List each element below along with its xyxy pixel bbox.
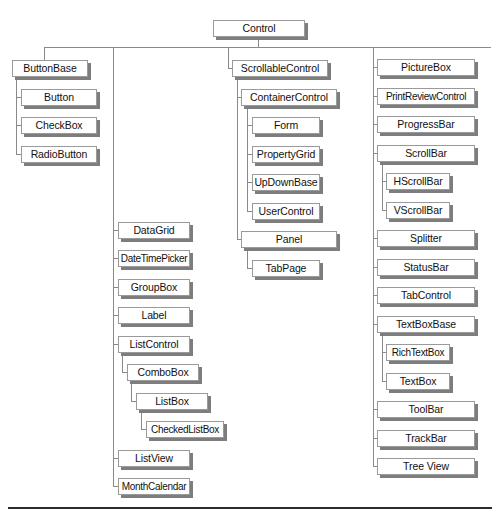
node-hscrollbar: HScrollBar <box>386 173 450 190</box>
connector-panel-trunk <box>247 248 248 268</box>
node-listcontrol: ListControl <box>118 336 190 353</box>
node-containercontrol: ContainerControl <box>241 89 337 106</box>
connector-root-bus <box>44 47 491 48</box>
node-propertygrid: PropertyGrid <box>252 146 320 163</box>
node-richtextbox: RichTextBox <box>386 344 450 361</box>
node-combobox: ComboBox <box>127 364 199 381</box>
connector-combobox <box>131 381 132 401</box>
node-monthcalendar: MonthCalendar <box>118 478 190 495</box>
node-tabcontrol: TabControl <box>377 287 475 304</box>
node-usercontrol: UserControl <box>252 203 320 220</box>
node-listbox: ListBox <box>136 393 208 410</box>
node-textboxbase: TextBoxBase <box>377 316 475 333</box>
connector-container-trunk <box>247 106 248 211</box>
node-scrollbar: ScrollBar <box>377 145 475 162</box>
node-checkbox: CheckBox <box>21 117 97 134</box>
connector-right-trunk <box>373 47 374 466</box>
node-printreviewcontrol: PrintReviewControl <box>377 88 475 105</box>
node-panel: Panel <box>241 231 337 248</box>
node-updownbase: UpDownBase <box>252 174 320 191</box>
connector-listbox <box>141 410 142 429</box>
connector-buttonbase-trunk <box>16 77 17 154</box>
node-trackbar: TrackBar <box>377 430 475 447</box>
connector-middle-trunk <box>113 47 114 486</box>
node-datetimepicker: DateTimePicker <box>118 250 190 267</box>
node-buttonbase: ButtonBase <box>12 60 88 77</box>
connector-scrollbar-trunk <box>382 162 383 210</box>
node-toolbar: ToolBar <box>377 401 475 418</box>
node-label: Label <box>118 307 190 324</box>
class-hierarchy-diagram: Control ButtonBase Button CheckBox Radio… <box>0 0 496 514</box>
node-control: Control <box>213 20 305 37</box>
node-groupbox: GroupBox <box>118 279 190 296</box>
node-treeview: Tree View <box>377 458 475 475</box>
node-splitter: Splitter <box>377 230 475 247</box>
node-statusbar: StatusBar <box>377 259 475 276</box>
node-picturebox: PictureBox <box>377 59 475 76</box>
connector-buttonbase-drop <box>44 47 45 60</box>
node-radiobutton: RadioButton <box>21 146 97 163</box>
bottom-rule-divider <box>8 507 492 509</box>
connector-scrollable-drop <box>228 47 229 68</box>
node-form: Form <box>252 117 320 134</box>
connector-textboxbase-trunk <box>382 333 383 381</box>
connector-listcontrol <box>122 353 123 372</box>
connector-scrollable-trunk <box>237 77 238 239</box>
node-listview: ListView <box>118 450 190 467</box>
node-button: Button <box>21 89 97 106</box>
node-textbox: TextBox <box>386 373 450 390</box>
connector-root-stem <box>258 36 259 47</box>
node-checkedlistbox: CheckedListBox <box>146 421 224 438</box>
node-vscrollbar: VScrollBar <box>386 202 450 219</box>
node-tabpage: TabPage <box>252 260 320 277</box>
node-progressbar: ProgressBar <box>377 116 475 133</box>
node-datagrid: DataGrid <box>118 222 190 239</box>
node-scrollablecontrol: ScrollableControl <box>232 60 328 77</box>
